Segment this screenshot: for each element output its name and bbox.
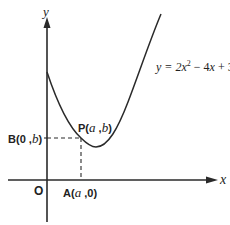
point-b-label: B(0 ,b)	[8, 132, 42, 145]
origin-label: O	[34, 185, 43, 197]
b-name: B	[8, 133, 16, 145]
x-axis-arrow-icon	[206, 177, 218, 184]
p-close: )	[108, 122, 112, 134]
eq-y: y = 2	[156, 60, 181, 74]
a-close: )	[93, 187, 97, 199]
x-axis-label: x	[220, 173, 226, 187]
b-close: )	[38, 133, 42, 145]
eq-rhs: + 3	[215, 60, 230, 74]
point-a-label: A(a ,0)	[63, 186, 97, 199]
point-p-label: P(a ,b)	[78, 121, 112, 134]
a-name: A	[63, 187, 71, 199]
equation-label: y = 2x2 − 4x + 3	[156, 60, 230, 73]
eq-mid: − 4	[191, 60, 210, 74]
y-axis-label: y	[43, 5, 49, 18]
